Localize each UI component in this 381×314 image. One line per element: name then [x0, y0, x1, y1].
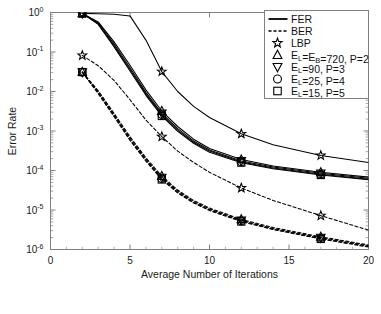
- y-tick-label: 10-6: [26, 243, 43, 256]
- legend-label: BER: [291, 25, 313, 37]
- plot-svg: 10010-110-210-310-410-510-605101520Avera…: [0, 0, 381, 314]
- y-tick-label: 10-3: [26, 124, 43, 137]
- y-tick-label: 100: [28, 6, 43, 19]
- x-tick-label: 10: [204, 255, 216, 266]
- y-tick-label: 10-2: [26, 85, 43, 98]
- legend-label: FER: [291, 13, 312, 25]
- y-tick-label: 10-1: [26, 45, 43, 58]
- chart-figure: 10010-110-210-310-410-510-605101520Avera…: [0, 0, 381, 314]
- y-tick-label: 10-4: [26, 164, 43, 177]
- x-tick-label: 15: [283, 255, 295, 266]
- y-axis-title: Error Rate: [6, 107, 18, 156]
- legend-label: LBP: [291, 37, 311, 49]
- x-tick-label: 20: [363, 255, 375, 266]
- x-tick-label: 5: [127, 255, 133, 266]
- series-marker-star: [237, 183, 246, 191]
- y-tick-label: 10-5: [26, 203, 43, 216]
- x-tick-label: 0: [48, 255, 54, 266]
- x-axis-title: Average Number of Iterations: [141, 268, 278, 280]
- legend: FERBERLBPEL=EB=720, P=2EL=90, P=3EL=25, …: [265, 11, 369, 100]
